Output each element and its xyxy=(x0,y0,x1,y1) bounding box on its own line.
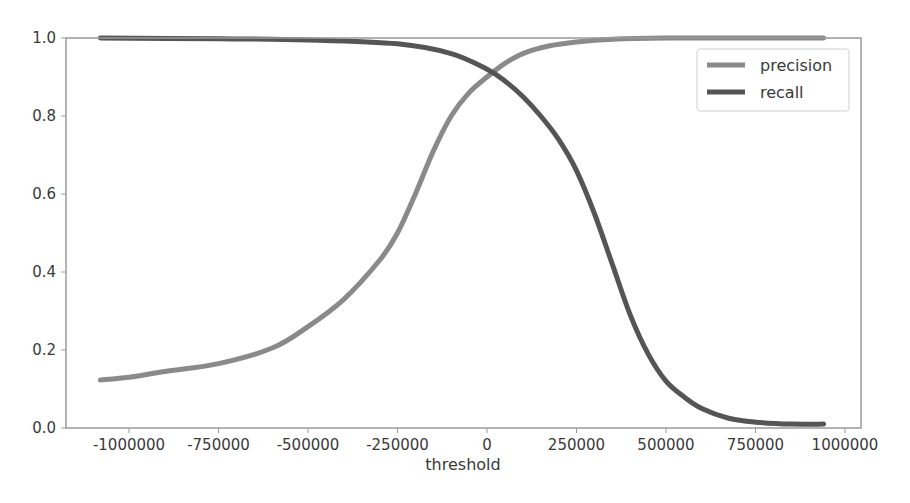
x-tick-label: 0 xyxy=(482,436,492,454)
y-tick-label: 0.8 xyxy=(32,107,56,125)
legend-label-precision: precision xyxy=(760,56,832,75)
x-tick-label: 250000 xyxy=(548,436,605,454)
y-tick-label: 0.0 xyxy=(32,419,56,437)
y-tick-label: 0.2 xyxy=(32,341,56,359)
x-axis-ticks: -1000000-750000-500000-25000002500005000… xyxy=(93,428,879,454)
y-axis-ticks: 0.00.20.40.60.81.0 xyxy=(32,29,66,437)
x-tick-label: 500000 xyxy=(637,436,694,454)
x-tick-label: 750000 xyxy=(727,436,784,454)
y-tick-label: 0.6 xyxy=(32,185,56,203)
x-tick-label: 1000000 xyxy=(812,436,879,454)
x-tick-label: -750000 xyxy=(187,436,250,454)
x-axis-label: threshold xyxy=(425,455,500,474)
y-tick-label: 0.4 xyxy=(32,263,56,281)
x-tick-label: -1000000 xyxy=(93,436,165,454)
x-tick-label: -500000 xyxy=(277,436,340,454)
legend-label-recall: recall xyxy=(760,83,804,102)
y-tick-label: 1.0 xyxy=(32,29,56,47)
x-tick-label: -250000 xyxy=(366,436,429,454)
legend: precision recall xyxy=(697,49,849,111)
precision-recall-chart: 0.00.20.40.60.81.0 -1000000-750000-50000… xyxy=(0,0,910,503)
